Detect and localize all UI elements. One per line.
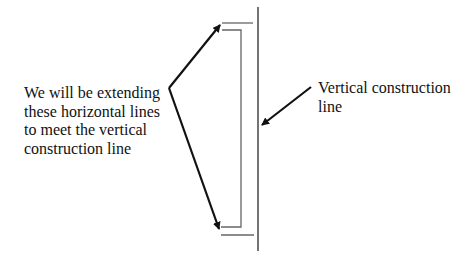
inner-bracket <box>221 30 241 227</box>
construction-diagram <box>0 0 469 259</box>
arrow-to-vertical-line <box>262 87 311 125</box>
arrow-to-bottom-line <box>169 88 219 229</box>
arrow-to-top-line <box>169 25 220 88</box>
